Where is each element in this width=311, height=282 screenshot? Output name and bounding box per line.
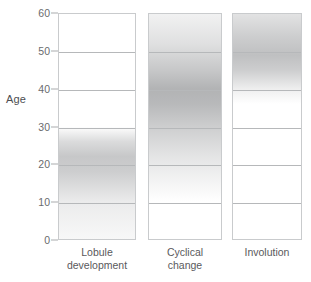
y-tick-label: 40 [26,83,50,95]
y-tick-label: 50 [26,45,50,57]
y-tick-mark [51,50,58,51]
y-tick-mark [51,13,58,14]
y-tick-label: 0 [26,234,50,246]
x-category-label-line: Lobule [58,246,136,259]
chart-panel [58,13,136,240]
chart-panel [148,13,222,240]
y-tick-label: 20 [26,158,50,170]
x-category-label: Cyclicalchange [148,246,222,272]
y-tick-label: 10 [26,196,50,208]
y-tick-label: 60 [26,7,50,19]
x-axis-category-labels: LobuledevelopmentCyclicalchangeInvolutio… [58,246,302,280]
y-tick-mark [51,88,58,89]
y-tick-mark [51,202,58,203]
y-axis-tick-marks [51,0,58,282]
y-tick-mark [51,126,58,127]
x-category-label: Lobuledevelopment [58,246,136,272]
y-tick-mark [51,240,58,241]
x-category-label-line: Involution [232,246,302,259]
chart-panel [232,13,302,240]
y-axis-title: Age [6,93,26,105]
x-category-label-line: Cyclical [148,246,222,259]
panel-density-gradient [149,14,221,239]
plot-area [58,13,302,240]
x-category-label: Involution [232,246,302,259]
y-tick-label: 30 [26,121,50,133]
panel-density-gradient [233,14,301,239]
y-tick-mark [51,164,58,165]
panel-density-gradient [59,14,135,239]
chart-figure: Age 0102030405060 LobuledevelopmentCycli… [0,0,311,282]
x-category-label-line: change [148,259,222,272]
y-axis-tick-labels: 0102030405060 [26,0,50,282]
x-category-label-line: development [58,259,136,272]
